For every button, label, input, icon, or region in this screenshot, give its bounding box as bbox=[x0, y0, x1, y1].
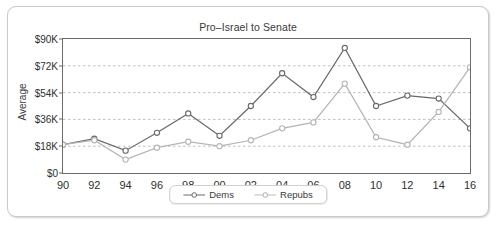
data-point-marker[interactable] bbox=[123, 157, 128, 162]
x-axis-tick-label: 10 bbox=[370, 179, 382, 191]
legend-marker-dems-icon bbox=[183, 191, 205, 199]
y-axis-tick-mark bbox=[59, 119, 63, 120]
data-point-marker[interactable] bbox=[467, 126, 470, 131]
x-axis-tick-label: 94 bbox=[119, 179, 131, 191]
plot-area: $0$18K$36K$54K$72K$90K909294969800020406… bbox=[62, 38, 471, 174]
data-point-marker[interactable] bbox=[311, 120, 316, 125]
data-point-marker[interactable] bbox=[311, 94, 316, 99]
y-axis-tick-mark bbox=[59, 173, 63, 174]
y-axis-tick-mark bbox=[59, 92, 63, 93]
y-axis-tick-label: $72K bbox=[35, 60, 58, 71]
data-point-marker[interactable] bbox=[436, 96, 441, 101]
data-point-marker[interactable] bbox=[217, 144, 222, 149]
chart-title: Pro–Israel to Senate bbox=[8, 21, 488, 33]
y-axis-tick-label: $18K bbox=[35, 141, 58, 152]
legend-marker-repubs-icon bbox=[254, 191, 276, 199]
y-axis-tick-mark bbox=[59, 146, 63, 147]
data-point-marker[interactable] bbox=[123, 148, 128, 153]
data-point-marker[interactable] bbox=[92, 138, 97, 143]
data-point-marker[interactable] bbox=[373, 135, 378, 140]
x-axis-tick-label: 16 bbox=[464, 179, 476, 191]
data-point-marker[interactable] bbox=[280, 126, 285, 131]
data-point-marker[interactable] bbox=[186, 111, 191, 116]
data-point-marker[interactable] bbox=[373, 103, 378, 108]
data-point-marker[interactable] bbox=[280, 71, 285, 76]
y-axis-tick-mark bbox=[59, 65, 63, 66]
chart-card: Pro–Israel to Senate Average $0$18K$36K$… bbox=[7, 6, 489, 217]
x-axis-tick-label: 90 bbox=[57, 179, 69, 191]
y-axis-tick-label: $54K bbox=[35, 87, 58, 98]
y-axis-tick-label: $36K bbox=[35, 114, 58, 125]
data-point-marker[interactable] bbox=[154, 145, 159, 150]
x-axis-tick-label: 96 bbox=[151, 179, 163, 191]
y-axis-tick-label: $90K bbox=[35, 34, 58, 45]
data-point-marker[interactable] bbox=[248, 103, 253, 108]
data-point-marker[interactable] bbox=[248, 138, 253, 143]
x-axis-tick-label: 92 bbox=[88, 179, 100, 191]
data-point-marker[interactable] bbox=[467, 65, 470, 70]
data-point-marker[interactable] bbox=[405, 93, 410, 98]
data-point-marker[interactable] bbox=[63, 142, 66, 147]
data-point-marker[interactable] bbox=[186, 139, 191, 144]
data-point-marker[interactable] bbox=[342, 81, 347, 86]
data-point-marker[interactable] bbox=[154, 130, 159, 135]
chart-legend: Dems Repubs bbox=[169, 185, 327, 204]
legend-item-dems[interactable]: Dems bbox=[183, 189, 234, 200]
data-point-marker[interactable] bbox=[217, 133, 222, 138]
legend-label-dems: Dems bbox=[209, 189, 234, 200]
legend-item-repubs[interactable]: Repubs bbox=[254, 189, 313, 200]
legend-label-repubs: Repubs bbox=[280, 189, 313, 200]
x-axis-tick-label: 08 bbox=[339, 179, 351, 191]
x-axis-tick-label: 14 bbox=[433, 179, 445, 191]
y-axis-tick-label: $0 bbox=[47, 168, 58, 179]
chart-lines-svg bbox=[63, 39, 470, 173]
data-point-marker[interactable] bbox=[405, 142, 410, 147]
x-axis-tick-label: 12 bbox=[401, 179, 413, 191]
data-point-marker[interactable] bbox=[436, 109, 441, 114]
series-line-dems bbox=[63, 48, 470, 151]
data-point-marker[interactable] bbox=[342, 45, 347, 50]
y-axis-tick-mark bbox=[59, 39, 63, 40]
y-axis-label: Average bbox=[17, 83, 28, 120]
